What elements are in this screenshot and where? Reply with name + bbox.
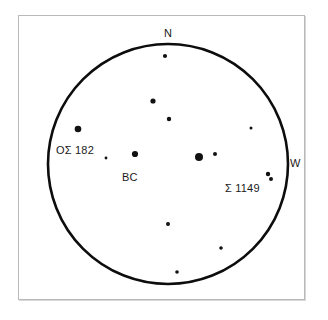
star-marker	[219, 246, 223, 250]
star-label-struve-1149: Σ 1149	[225, 183, 260, 194]
star-chart-figure: N W OΣ 182 BC Σ 1149	[0, 0, 328, 320]
star-marker	[195, 153, 203, 161]
star-marker	[250, 127, 253, 130]
cardinal-label-west: W	[290, 158, 301, 169]
star-marker	[132, 151, 138, 157]
star-marker	[75, 126, 82, 133]
cardinal-label-north: N	[164, 28, 172, 39]
star-marker	[150, 98, 155, 103]
star-marker	[266, 172, 270, 176]
field-of-view-circle	[48, 44, 288, 284]
sky-canvas	[0, 0, 328, 320]
star-label-omicron-struve-182: OΣ 182	[56, 145, 94, 156]
star-marker	[213, 152, 217, 156]
star-marker	[166, 222, 170, 226]
star-marker	[105, 157, 108, 160]
star-label-bc: BC	[122, 172, 138, 183]
star-marker	[269, 177, 273, 181]
star-marker	[175, 270, 179, 274]
star-marker	[163, 54, 167, 58]
star-marker	[167, 117, 171, 121]
